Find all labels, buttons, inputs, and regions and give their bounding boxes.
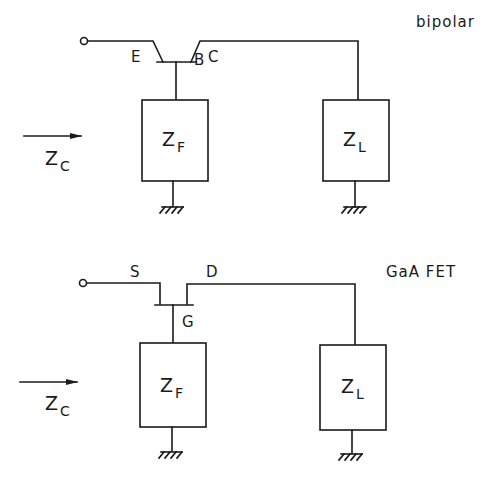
base-label: B (194, 51, 204, 69)
circuit-diagram: bipolar E B C ZF ZL (0, 0, 492, 483)
ground-icon (342, 207, 366, 213)
source-label: S (130, 263, 140, 281)
ground-icon (339, 454, 362, 460)
fet-title: GaA FET (386, 263, 456, 281)
input-terminal-icon (81, 38, 88, 45)
drain-wire (187, 284, 355, 345)
ground-icon (160, 207, 183, 213)
gate-label: G (182, 313, 194, 331)
bipolar-circuit: bipolar E B C ZF ZL (24, 13, 475, 213)
emitter-wire (88, 41, 163, 62)
bipolar-title: bipolar (416, 13, 475, 31)
drain-label: D (206, 263, 218, 281)
input-impedance-label: ZC (45, 392, 70, 419)
source-wire (87, 283, 160, 304)
input-terminal-icon (80, 280, 87, 287)
collector-label: C (208, 48, 218, 66)
input-impedance-label: ZC (45, 147, 70, 174)
ground-icon (159, 452, 182, 458)
fet-circuit: GaA FET S G D ZF ZL (20, 263, 456, 460)
emitter-label: E (131, 48, 140, 66)
